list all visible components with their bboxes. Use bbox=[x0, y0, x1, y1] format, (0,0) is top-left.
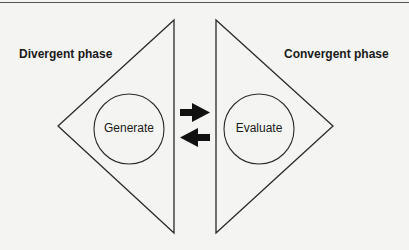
divergent-phase-label: Divergent phase bbox=[19, 47, 112, 61]
generate-node-label: Generate bbox=[94, 121, 164, 135]
arrow-right-icon bbox=[180, 103, 210, 122]
evaluate-node-label: Evaluate bbox=[224, 121, 294, 135]
convergent-phase-label: Convergent phase bbox=[284, 47, 389, 61]
arrow-left-icon bbox=[180, 128, 210, 147]
divergent-convergent-diagram bbox=[0, 0, 409, 250]
